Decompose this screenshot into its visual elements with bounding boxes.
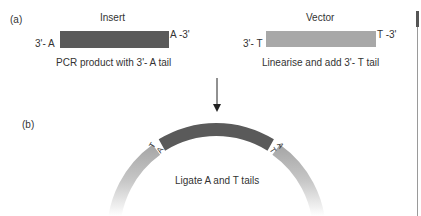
insert-arc — [159, 123, 274, 151]
ligation-caption: Ligate A and T tails — [175, 176, 259, 186]
scrollbar-track[interactable] — [417, 11, 418, 216]
panel-b-label: (b) — [22, 120, 34, 130]
scrollbar-thumb[interactable] — [416, 11, 419, 27]
arrow-down-icon — [213, 78, 221, 112]
